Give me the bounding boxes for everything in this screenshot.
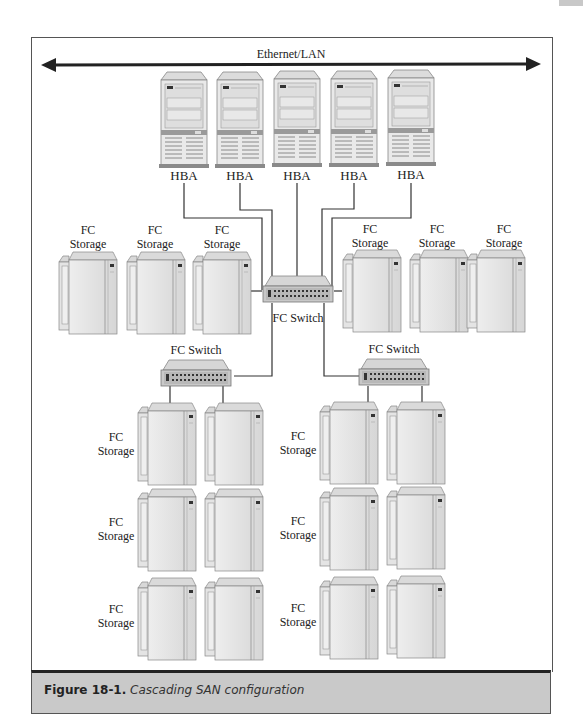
storage-label-storage: Storage — [280, 528, 317, 542]
server-3 — [272, 71, 322, 167]
fc-switch-right-label: FC Switch — [368, 342, 419, 356]
fc-storage-top-left-1 — [59, 252, 117, 334]
storage-label-storage: Storage — [419, 236, 456, 250]
fc-switch-left — [161, 360, 231, 386]
figure-title: Cascading SAN configuration — [130, 683, 304, 697]
fc-storage-cascade-right — [320, 402, 445, 659]
storage-label-fc: FC — [109, 602, 124, 616]
storage-label-storage: Storage — [98, 616, 135, 630]
hba-label-2: HBA — [226, 168, 254, 183]
fc-switch-left-label: FC Switch — [170, 343, 221, 357]
storage-label-storage: Storage — [204, 237, 241, 251]
storage-label-fc: FC — [291, 601, 306, 615]
server-1 — [159, 72, 209, 168]
storage-label-fc: FC — [109, 515, 124, 529]
storage-label-fc: FC — [291, 429, 306, 443]
fc-storage-top-right-1 — [343, 250, 401, 332]
figure-number: Figure 18-1. — [44, 683, 126, 697]
hba-label-5: HBA — [397, 167, 425, 182]
server-4 — [329, 71, 379, 167]
storage-label-storage: Storage — [486, 236, 523, 250]
storage-label-fc: FC — [148, 223, 163, 237]
storage-label-fc: FC — [430, 222, 445, 236]
hba-label-1: HBA — [170, 168, 198, 183]
server-5 — [386, 70, 436, 166]
san-diagram: Ethernet/LAN HBA HBA HBA HBA HBA FC Stor… — [0, 0, 583, 724]
storage-label-storage: Storage — [98, 444, 135, 458]
storage-label-storage: Storage — [352, 236, 389, 250]
fc-switch-core-label: FC Switch — [272, 311, 323, 325]
server-2 — [215, 72, 265, 168]
storage-label-fc: FC — [497, 222, 512, 236]
hba-label-3: HBA — [283, 168, 311, 183]
hba-label-4: HBA — [340, 168, 368, 183]
figure-caption: Figure 18-1. Cascading SAN configuration — [31, 670, 551, 714]
storage-label-storage: Storage — [280, 615, 317, 629]
fc-switch-right — [359, 359, 429, 385]
fc-storage-top-right-2 — [410, 250, 468, 332]
fc-switch-core — [263, 276, 333, 302]
storage-label-fc: FC — [109, 430, 124, 444]
fc-storage-top-left-3 — [193, 252, 251, 334]
storage-label-storage: Storage — [280, 443, 317, 457]
storage-label-storage: Storage — [70, 237, 107, 251]
fc-storage-top-left-2 — [127, 252, 185, 334]
storage-label-fc: FC — [363, 222, 378, 236]
storage-label-fc: FC — [215, 223, 230, 237]
fc-storage-cascade-left — [138, 403, 263, 660]
storage-label-storage: Storage — [137, 237, 174, 251]
fc-storage-top-right-3 — [467, 250, 525, 332]
ethernet-lan-label: Ethernet/LAN — [257, 47, 326, 61]
storage-label-storage: Storage — [98, 529, 135, 543]
storage-label-fc: FC — [291, 514, 306, 528]
storage-label-fc: FC — [81, 223, 96, 237]
